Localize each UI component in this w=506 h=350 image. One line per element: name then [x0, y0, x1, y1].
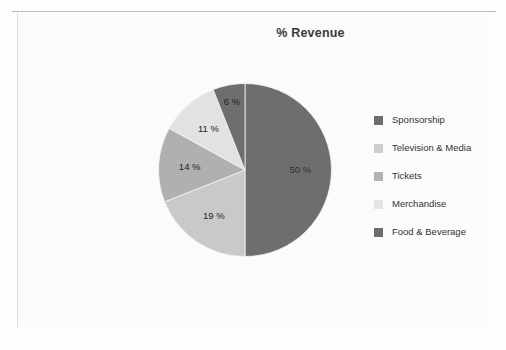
- legend-color-swatch: [374, 144, 383, 153]
- pie-slice: [245, 84, 331, 257]
- chart-legend: SponsorshipTelevision & MediaTicketsMerc…: [374, 106, 504, 246]
- legend-item-label: Television & Media: [392, 143, 471, 153]
- legend-item-label: Tickets: [392, 171, 422, 181]
- legend-item-label: Food & Beverage: [392, 227, 466, 237]
- chart-page: % Revenue 50 %19 %14 %11 %6 % Sponsorshi…: [0, 0, 506, 350]
- legend-item[interactable]: Tickets: [374, 162, 504, 190]
- pie-slice-value-label: 11 %: [198, 123, 220, 134]
- pie-chart-svg: 50 %19 %14 %11 %6 %: [158, 83, 332, 257]
- page-title: % Revenue: [208, 26, 413, 40]
- legend-color-swatch: [374, 172, 383, 181]
- pie-slice-value-label: 50 %: [290, 164, 312, 175]
- pie-slice-value-label: 19 %: [203, 210, 225, 221]
- legend-color-swatch: [374, 116, 383, 125]
- legend-color-swatch: [374, 200, 383, 209]
- legend-item[interactable]: Television & Media: [374, 134, 504, 162]
- legend-item-label: Merchandise: [392, 199, 446, 209]
- page-border-top: [12, 11, 496, 12]
- pie-chart: 50 %19 %14 %11 %6 %: [158, 83, 332, 257]
- pie-slice-value-label: 6 %: [224, 96, 241, 107]
- legend-item[interactable]: Sponsorship: [374, 106, 504, 134]
- pie-slice-value-label: 14 %: [179, 161, 201, 172]
- legend-color-swatch: [374, 228, 383, 237]
- legend-item[interactable]: Merchandise: [374, 190, 504, 218]
- legend-item[interactable]: Food & Beverage: [374, 218, 504, 246]
- legend-item-label: Sponsorship: [392, 115, 445, 125]
